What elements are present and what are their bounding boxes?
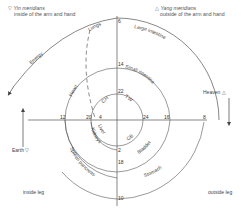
tw-label: TW: [124, 93, 134, 103]
number-4: 4: [99, 114, 102, 120]
number-18: 18: [118, 159, 124, 165]
heart-dashed-line: [86, 30, 95, 118]
number-24: 24: [143, 114, 149, 120]
outside-leg-label: outside leg: [208, 189, 232, 195]
number-12: 12: [60, 114, 66, 120]
meridian-diagram: ▽ Yin meridians inside of the arm and ha…: [0, 0, 249, 208]
spleen-pancreas-label: Spleen pancreas: [69, 146, 97, 177]
number-20: 20: [86, 114, 92, 120]
heaven-label: Heaven △: [203, 89, 226, 95]
large-intestine-label: Large intestine: [134, 23, 168, 40]
inside-leg-label: inside leg: [23, 189, 44, 195]
number-8: 8: [203, 114, 206, 120]
earth-label: Earth ▽: [12, 147, 29, 153]
number-14: 14: [118, 61, 124, 67]
energy-arrow-icon: [9, 86, 14, 94]
number-16: 16: [164, 114, 170, 120]
number-6: 6: [118, 18, 121, 24]
heart-label: Heart: [67, 83, 79, 97]
yin-legend-sub: inside of the arm and hand: [14, 11, 76, 17]
energy-outer-arc: [14, 18, 219, 120]
number-22: 22: [118, 88, 124, 94]
bladder-label: Bladder: [136, 139, 152, 155]
liver-label: Liver: [97, 123, 107, 135]
number-10: 10: [118, 195, 124, 201]
yang-legend-sub: outside of the arm and hand: [160, 11, 225, 17]
lungs-label: Lungs: [87, 20, 103, 32]
number-2: 2: [118, 147, 121, 153]
stomach-label: Stomach: [143, 164, 163, 178]
small-intestine-label: Small intestine: [125, 63, 157, 85]
energy-label: Energy: [28, 50, 44, 65]
